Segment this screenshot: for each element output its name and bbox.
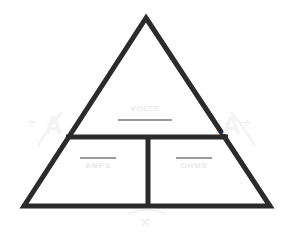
ohms-law-triangle-diagram: VOLTS AMPS OHMS ÷ ÷ × A A: [0, 0, 293, 249]
cell-label-volts: VOLTS: [117, 104, 173, 113]
divide-operator-left-icon: ÷: [28, 115, 35, 130]
ghost-mark-left: A: [44, 110, 63, 141]
cell-label-ohms: OHMS: [168, 161, 220, 170]
divide-operator-right-icon: ÷: [243, 115, 250, 130]
ghost-mark-right: A: [222, 110, 241, 141]
multiply-operator-bottom-icon: ×: [140, 213, 150, 233]
cell-label-amps: AMPS: [72, 161, 124, 170]
